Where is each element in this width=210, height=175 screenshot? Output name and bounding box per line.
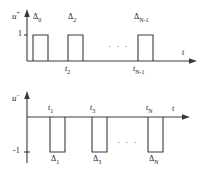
figure-canvas bbox=[0, 0, 210, 175]
bottom-pulse-label-delta-n-sub: N bbox=[154, 159, 158, 165]
bottom-pulse-label-delta-n: ΔN bbox=[149, 155, 159, 165]
top-y-axis-arrowhead bbox=[24, 9, 30, 17]
bottom-y-tick-label: -1 bbox=[13, 147, 20, 155]
bottom-y-axis-label: u− bbox=[12, 92, 20, 103]
top-pulse-label-delta-n-1: ΔN-1 bbox=[134, 13, 149, 23]
top-pulse-delta-0 bbox=[33, 35, 48, 61]
bottom-time-label-t3-sub: 3 bbox=[92, 108, 95, 114]
bottom-time-label-t1: t1 bbox=[48, 104, 53, 114]
bottom-pulse-label-delta-1-sub: 1 bbox=[56, 159, 59, 165]
top-pulse-delta-n-1 bbox=[138, 35, 153, 61]
top-pulse-delta-2 bbox=[68, 35, 83, 61]
bottom-pulse-label-delta-1: Δ1 bbox=[51, 155, 59, 165]
bottom-time-label-t3: t3 bbox=[90, 104, 95, 114]
top-ellipsis: · · · bbox=[108, 41, 129, 51]
bottom-pulse-delta-1 bbox=[50, 117, 65, 152]
bottom-pulse-delta-3 bbox=[92, 117, 107, 152]
top-x-axis-arrowhead bbox=[189, 58, 197, 64]
bottom-y-axis-label-superscript: − bbox=[17, 92, 20, 98]
bottom-pulse-label-delta-3-sub: 3 bbox=[98, 159, 101, 165]
top-x-axis-label: t bbox=[182, 49, 184, 57]
top-y-tick-label: 1 bbox=[18, 30, 22, 38]
top-pulse-label-delta-2: Δ2 bbox=[68, 13, 76, 23]
bottom-time-label-t1-sub: 1 bbox=[50, 108, 53, 114]
top-time-label-tn-1-sub: N-1 bbox=[135, 69, 144, 75]
top-time-label-t2: t2 bbox=[65, 65, 70, 75]
top-pulse-label-delta-0-sub: 0 bbox=[38, 17, 41, 23]
bottom-x-axis-arrowhead bbox=[182, 114, 190, 120]
bottom-ellipsis: · · · bbox=[117, 137, 138, 147]
bottom-x-axis-label: t bbox=[172, 105, 174, 113]
bottom-time-label-tn: tN bbox=[146, 104, 153, 114]
top-time-label-tn-1: tN-1 bbox=[133, 65, 145, 75]
bottom-pulse-delta-n bbox=[148, 117, 163, 152]
bottom-pulse-label-delta-3: Δ3 bbox=[93, 155, 101, 165]
top-pulse-label-delta-0: Δ0 bbox=[33, 13, 41, 23]
bottom-time-label-tn-sub: N bbox=[148, 108, 152, 114]
top-pulse-label-delta-n-1-sub: N-1 bbox=[139, 17, 148, 23]
top-pulse-label-delta-2-sub: 2 bbox=[73, 17, 76, 23]
pulse-train-figure: u+ 1 Δ0 Δ2 ΔN-1 · · · t2 tN-1 t u− -1 t1… bbox=[0, 0, 210, 175]
top-y-axis-label: u+ bbox=[12, 10, 20, 21]
top-plot-group bbox=[24, 9, 197, 64]
top-time-label-t2-sub: 2 bbox=[67, 69, 70, 75]
top-y-axis-label-superscript: + bbox=[17, 10, 20, 16]
bottom-plot-group bbox=[24, 91, 190, 163]
bottom-y-axis-arrowhead bbox=[24, 91, 30, 99]
